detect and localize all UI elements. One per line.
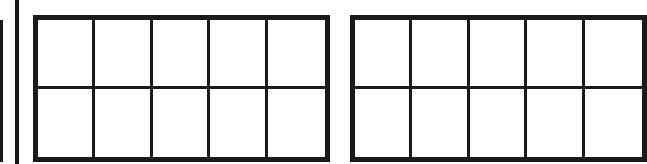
ten-frame-cell [268,89,325,158]
ten-frame-cell [153,20,210,89]
ten-frame-cell [210,20,267,89]
left-frame-sliver [0,20,3,162]
ten-frame-cell [38,20,95,89]
ten-frame-cell [210,89,267,158]
left-frame-right-border [15,0,19,164]
ten-frame-cell [38,89,95,158]
center-ten-frame [33,15,330,162]
ten-frame-cell [153,89,210,158]
ten-frame-cell [95,89,152,158]
ten-frame-cell [412,20,469,89]
ten-frame-cell [355,89,412,158]
ten-frame-cell [527,89,584,158]
ten-frame-cell [470,20,527,89]
ten-frame-cell [527,20,584,89]
ten-frame-cell [585,89,642,158]
ten-frame-cell [268,20,325,89]
ten-frame-cell [412,89,469,158]
ten-frame-cell [585,20,642,89]
ten-frame-cell [470,89,527,158]
ten-frame-cell [95,20,152,89]
right-ten-frame [350,15,647,162]
ten-frame-cell [355,20,412,89]
